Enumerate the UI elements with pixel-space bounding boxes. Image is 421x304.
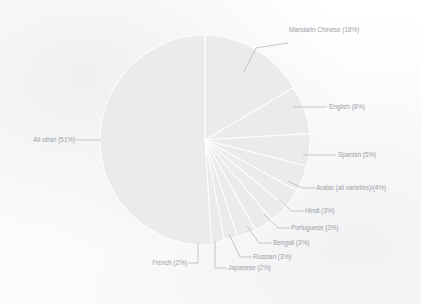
pie-label-french: French (2%) <box>89 259 187 266</box>
leader-line-french <box>188 243 198 263</box>
pie-label-all-other: All other (51%) <box>6 136 75 143</box>
pie-label-spanish: Spanish (5%) <box>338 151 376 158</box>
pie-label-russian: Russian (3%) <box>253 253 291 260</box>
pie-label-portuguese: Portuguese (3%) <box>291 224 339 231</box>
pie-label-arabic: Arabic (all varieties)/(4%) <box>316 184 386 191</box>
leader-line-japanese <box>215 241 227 268</box>
pie-slice-all-other <box>100 35 212 245</box>
pie-label-japanese: Japanese (2%) <box>228 264 271 271</box>
pie-label-hindi: Hindi (3%) <box>305 207 334 214</box>
pie-label-english: English (8%) <box>329 103 365 110</box>
pie-chart-figure: Mandarin Chinese (16%) English (8%) Span… <box>0 0 421 304</box>
pie-label-bengali: Bengali (3%) <box>273 239 309 246</box>
pie-label-mandarin-chinese: Mandarin Chinese (16%) <box>289 26 359 33</box>
